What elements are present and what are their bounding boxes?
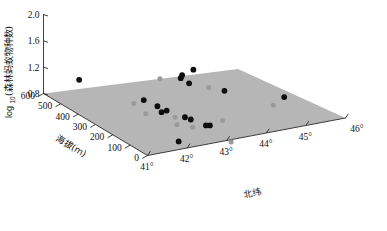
data-point [281,94,287,100]
y-tick-0 [142,156,147,159]
data-point [179,72,185,78]
shadow-point [175,122,180,127]
z-tick-label-1.6: 1.6 [28,36,40,46]
y-tick-100 [125,145,130,148]
z-tick-2.0 [44,15,49,17]
y-tick-label-0: 0 [134,153,139,163]
x-tick-label-42: 42° [180,154,194,164]
y-tick-label-400: 400 [55,112,70,122]
data-point [176,139,182,145]
x-tick-label-46: 46° [350,124,364,134]
z-axis-title-rest: (森林蚂蚁物种数) [3,26,14,96]
y-tick-200 [108,135,113,138]
x-tick-46 [346,114,349,118]
y-tick-label-200: 200 [90,132,105,142]
z-tick-1.2 [44,67,49,69]
data-point [207,122,213,128]
y-tick-300 [90,125,95,128]
shadow-point [173,115,178,120]
data-point [76,77,82,83]
z-tick-label-2.0: 2.0 [28,10,40,20]
y-tick-label-300: 300 [73,122,88,132]
z-tick-label-1.2: 1.2 [28,63,40,73]
y-axis-title: 海拔(m) [54,132,89,159]
y-tick-400 [73,114,78,117]
x-tick-label-44: 44° [259,139,273,149]
data-point [182,114,188,120]
chart-figure: 2.0 1.6 1.2 0.8 log 10 (森林蚂蚁物种数) 600 500… [0,0,387,231]
y-tick-label-500: 500 [38,101,53,111]
regression-plane [44,69,346,156]
z-axis-group: 2.0 1.6 1.2 0.8 [28,10,48,99]
x-axis-title: 北纬 [242,185,262,199]
z-axis-title-prefix: log [4,106,14,118]
data-point [164,108,170,114]
shadow-point [143,111,148,116]
data-point [188,117,194,123]
scatter3d-plot: 2.0 1.6 1.2 0.8 log 10 (森林蚂蚁物种数) 600 500… [0,0,387,231]
z-axis-title-subscript: 10 [9,96,16,104]
data-point [190,67,196,73]
data-point [222,88,228,94]
data-point [186,80,192,86]
shadow-point [271,103,276,108]
regression-plane-group [44,69,346,156]
x-tick-label-43: 43° [220,147,234,157]
z-tick-1.6 [44,41,49,43]
data-point [141,97,147,103]
shadow-point [206,85,211,90]
shadow-point [131,101,136,106]
y-tick-label-600: 600 [21,91,36,101]
shadow-point [220,118,225,123]
y-tick-500 [56,104,61,107]
y-axis-title-group: 海拔(m) [54,132,89,159]
z-axis-title-group: log 10 (森林蚂蚁物种数) [3,26,16,118]
data-point [155,103,161,109]
x-axis-title-group: 北纬 [242,185,262,199]
shadow-point [157,76,162,81]
shadow-point [229,139,234,144]
data-point [159,109,165,115]
x-tick-label-45: 45° [299,132,313,142]
x-tick-label-41: 41° [140,162,154,172]
y-tick-label-100: 100 [107,143,122,153]
shadow-point [190,125,195,130]
